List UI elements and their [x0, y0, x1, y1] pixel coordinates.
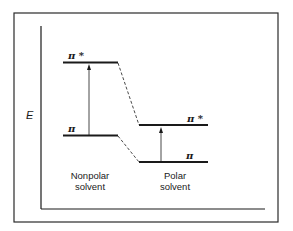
polar-caption-line1: Polar [164, 170, 186, 181]
arrowhead-icon [87, 64, 91, 70]
polar-pi-star-label: π * [186, 113, 204, 124]
nonpolar-pi-star-label: π * [67, 50, 85, 61]
nonpolar-caption-line2: solvent [75, 181, 105, 192]
polar-caption-line2: solvent [160, 181, 190, 192]
polar-pi-label: π [185, 150, 194, 161]
pi-star-connector [118, 63, 139, 125]
energy-diagram: E π * π π * π Nonpolar solvent Polar sol… [0, 0, 293, 231]
y-axis-label: E [26, 109, 34, 121]
nonpolar-pi-label: π [67, 123, 76, 134]
arrowhead-icon [159, 127, 163, 133]
outer-frame [14, 13, 278, 222]
pi-connector [118, 136, 139, 162]
nonpolar-caption-line1: Nonpolar [71, 170, 110, 181]
